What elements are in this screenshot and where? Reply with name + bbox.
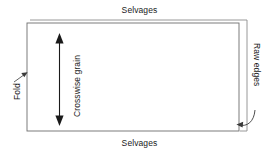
crosswise-grain-arrow-icon xyxy=(55,33,63,126)
label-raw-edges: Raw edges xyxy=(252,43,262,86)
label-selvages-top: Selvages xyxy=(0,5,279,15)
fabric-grain-diagram: Selvages Selvages Fold Crosswise grain R… xyxy=(0,0,279,156)
diagram-canvas xyxy=(0,0,279,156)
back-layer-outline xyxy=(30,20,247,131)
label-selvages-bottom: Selvages xyxy=(0,138,279,148)
fold-pointer-arrow-icon xyxy=(14,72,28,82)
label-fold: Fold xyxy=(12,83,22,100)
label-crosswise-grain: Crosswise grain xyxy=(72,55,82,117)
